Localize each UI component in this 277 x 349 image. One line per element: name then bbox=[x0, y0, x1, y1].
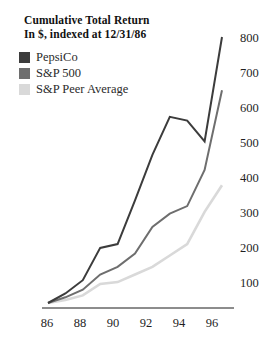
series-line-sp500 bbox=[48, 90, 222, 303]
y-tick-600: 600 bbox=[240, 101, 259, 116]
y-tick-400: 400 bbox=[240, 171, 259, 186]
plot-area bbox=[0, 0, 277, 349]
series-line-pepsico bbox=[48, 37, 222, 303]
x-tick-86: 86 bbox=[35, 316, 59, 331]
cumulative-total-return-chart: Cumulative Total Return In $, indexed at… bbox=[0, 0, 277, 349]
x-tick-94: 94 bbox=[167, 316, 191, 331]
y-tick-700: 700 bbox=[240, 66, 259, 81]
y-tick-800: 800 bbox=[240, 31, 259, 46]
y-tick-300: 300 bbox=[240, 206, 259, 221]
x-tick-96: 96 bbox=[200, 316, 224, 331]
x-tick-90: 90 bbox=[101, 316, 125, 331]
x-tick-92: 92 bbox=[134, 316, 158, 331]
y-tick-100: 100 bbox=[240, 276, 259, 291]
x-tick-88: 88 bbox=[68, 316, 92, 331]
y-tick-500: 500 bbox=[240, 136, 259, 151]
y-tick-200: 200 bbox=[240, 241, 259, 256]
